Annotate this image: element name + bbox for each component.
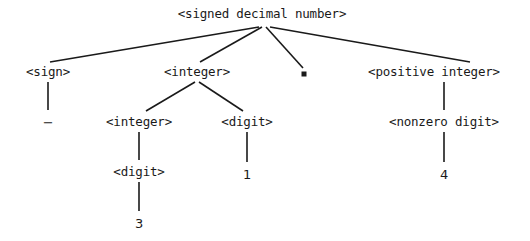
tree-edge-integer1-integer2 [146,82,195,111]
parse-tree-figure: <signed decimal number><sign><integer><p… [0,0,530,241]
tree-node-digit1: <digit> [221,116,272,129]
tree-edge-root-sign [50,27,259,62]
tree-node-integer2: <integer> [106,116,172,129]
tree-edge-root-point [266,27,303,68]
tree-node-positive-integer: <positive integer> [368,66,500,79]
tree-node-point [302,72,307,77]
tree-node-digit2: <digit> [113,166,164,179]
tree-node-nonzero-digit: <nonzero digit> [389,116,499,129]
tree-edge-root-positive-integer [270,27,470,62]
tree-node-integer1: <integer> [164,66,230,79]
tree-edge-integer1-digit1 [199,82,243,111]
tree-node-one: 1 [243,168,251,181]
tree-node-root: <signed decimal number> [178,8,347,21]
tree-node-minus: − [43,116,54,129]
tree-node-four: 4 [440,168,448,181]
tree-node-three: 3 [135,217,143,230]
tree-node-sign: <sign> [26,66,70,79]
